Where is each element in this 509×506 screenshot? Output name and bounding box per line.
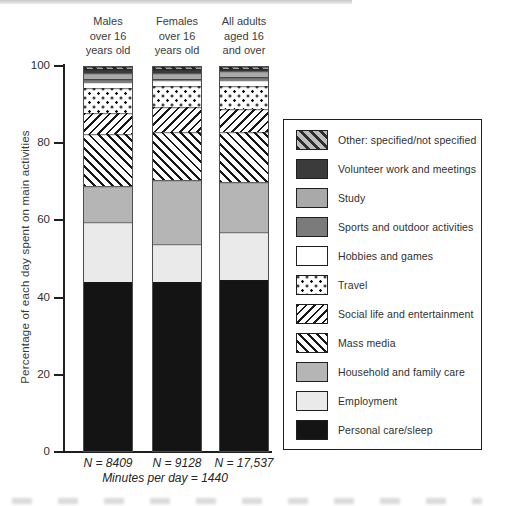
bar-segment (153, 132, 201, 180)
bar-segment (153, 86, 201, 107)
y-tick-label: 80 (18, 136, 50, 148)
legend-label: Volunteer work and meetings (338, 163, 476, 175)
y-axis-title: Percentage of each day spent on main act… (19, 107, 31, 407)
bar-segment (220, 86, 268, 109)
legend-label: Employment (338, 395, 397, 407)
legend-label: Hobbies and games (338, 250, 433, 262)
legend-item: Volunteer work and meetings (296, 159, 477, 179)
scan-artifact-top (0, 0, 352, 4)
y-tick-mark (54, 142, 63, 144)
bar-segment (153, 180, 201, 243)
y-tick-label: 60 (18, 213, 50, 225)
bar-segment (220, 280, 268, 451)
bar-segment (153, 282, 201, 451)
bar-segment (220, 182, 268, 232)
y-tick-mark (54, 374, 63, 376)
stacked-bar (219, 66, 269, 452)
legend-swatch-dots (296, 275, 328, 295)
legend-swatch-hatch-gray (296, 130, 328, 150)
bar-segment (84, 282, 132, 451)
column-header: All adults aged 16 and over (197, 14, 291, 58)
stacked-bar (152, 66, 202, 452)
legend-item: Social life and entertainment (296, 304, 477, 324)
legend-item: Study (296, 188, 477, 208)
legend-item: Sports and outdoor activities (296, 217, 477, 237)
minutes-per-day-footnote: Minutes per day = 1440 (58, 471, 272, 485)
bar-segment (84, 222, 132, 282)
bar-segment (84, 186, 132, 222)
y-tick-mark (54, 219, 63, 221)
legend-label: Household and family care (338, 366, 465, 378)
legend-swatch-solid (296, 188, 328, 208)
legend-label: Social life and entertainment (338, 308, 473, 320)
legend-item: Other: specified/not specified (296, 130, 477, 150)
stacked-bar (83, 66, 133, 452)
legend-label: Personal care/sleep (338, 424, 433, 436)
legend-box: Other: specified/not specifiedVolunteer … (283, 119, 482, 450)
bar-segment (84, 134, 132, 186)
legend-swatch-solid (296, 362, 328, 382)
y-tick-label: 20 (18, 368, 50, 380)
legend-label: Other: specified/not specified (338, 134, 476, 146)
y-axis-line (63, 64, 65, 453)
legend-label: Study (338, 192, 365, 204)
legend-item: Personal care/sleep (296, 420, 477, 440)
bar-segment (220, 132, 268, 182)
y-tick-mark (54, 65, 63, 67)
legend-label: Travel (338, 279, 367, 291)
bar-segment (84, 88, 132, 113)
y-tick-mark (54, 297, 63, 299)
legend-item: Mass media (296, 333, 477, 353)
bar-segment (153, 107, 201, 132)
legend-swatch-hatch-back (296, 333, 328, 353)
legend-swatch-hatch-fwd (296, 304, 328, 324)
sample-size-label: N = 17,537 (189, 456, 299, 470)
legend-item: Travel (296, 275, 477, 295)
y-tick-label: 40 (18, 291, 50, 303)
bar-segment (153, 244, 201, 282)
time-use-stacked-bar-figure: Percentage of each day spent on main act… (0, 0, 509, 506)
legend-swatch-solid (296, 246, 328, 266)
legend-swatch-solid (296, 159, 328, 179)
y-tick-mark (54, 451, 63, 453)
y-tick-label: 0 (18, 445, 50, 457)
bar-segment (220, 232, 268, 280)
legend-item: Household and family care (296, 362, 477, 382)
bar-segment (84, 113, 132, 134)
y-tick-label: 100 (18, 59, 50, 71)
legend-item: Hobbies and games (296, 246, 477, 266)
scan-artifact-bottom (12, 498, 482, 504)
legend-swatch-solid (296, 420, 328, 440)
bar-segment (220, 109, 268, 132)
legend-swatch-solid (296, 217, 328, 237)
legend-label: Mass media (338, 337, 396, 349)
legend-item: Employment (296, 391, 477, 411)
legend-label: Sports and outdoor activities (338, 221, 473, 233)
legend-swatch-solid (296, 391, 328, 411)
